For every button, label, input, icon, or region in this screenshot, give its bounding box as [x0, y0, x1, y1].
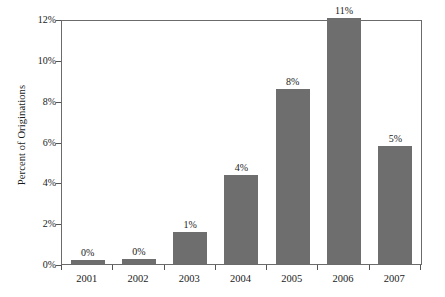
x-axis-tick-mark: [164, 265, 165, 270]
bar[interactable]: [327, 18, 361, 264]
x-axis-tick-mark: [61, 265, 62, 270]
x-axis-tick-label: 2007: [384, 272, 405, 285]
bar-value-label: 11%: [335, 5, 353, 16]
bar[interactable]: [71, 260, 105, 264]
bar[interactable]: [378, 146, 412, 264]
bar[interactable]: [173, 232, 207, 264]
x-axis-tick-mark: [112, 265, 113, 270]
bar[interactable]: [122, 259, 156, 264]
bar-value-label: 5%: [389, 133, 402, 144]
y-axis-tick-label: 2%: [26, 219, 56, 229]
x-axis-tick-label: 2004: [230, 272, 251, 285]
bar-group: 8%: [267, 21, 318, 264]
bar-group: 5%: [370, 21, 421, 264]
bar-value-label: 4%: [235, 162, 248, 173]
bar-value-label: 8%: [286, 76, 299, 87]
y-axis-tick-label: 12%: [26, 15, 56, 25]
plot-area: 0%0%1%4%8%11%5%: [62, 21, 421, 264]
bar-value-label: 0%: [81, 247, 94, 258]
y-axis-tick-label: 0%: [26, 260, 56, 270]
y-axis-tick-label: 10%: [26, 56, 56, 66]
x-axis-tick-label: 2002: [127, 272, 148, 285]
bar-group: 0%: [113, 21, 164, 264]
bar[interactable]: [276, 89, 310, 264]
y-axis-tick-label: 6%: [26, 138, 56, 148]
bar-group: 11%: [318, 21, 369, 264]
x-axis-tick-mark: [369, 265, 370, 270]
bar-group: 0%: [62, 21, 113, 264]
bar-chart: Percent of Originations 0%2%4%6%8%10%12%…: [0, 0, 445, 297]
x-axis-tick-mark: [317, 265, 318, 270]
x-axis-tick-mark: [420, 265, 421, 270]
bar-value-label: 0%: [132, 246, 145, 257]
x-axis-tick-marks: [61, 265, 422, 271]
y-axis-tick-label: 4%: [26, 178, 56, 188]
x-axis-tick-mark: [266, 265, 267, 270]
y-axis-tick-label: 8%: [26, 97, 56, 107]
x-axis-tick-label: 2001: [76, 272, 97, 285]
x-axis-tick-labels: 2001200220032004200520062007: [61, 272, 422, 288]
x-axis-tick-label: 2006: [333, 272, 354, 285]
bar[interactable]: [224, 175, 258, 264]
bar-group: 1%: [165, 21, 216, 264]
y-axis-tick-labels: 0%2%4%6%8%10%12%: [26, 0, 56, 297]
bar-value-label: 1%: [184, 219, 197, 230]
bar-group: 4%: [216, 21, 267, 264]
x-axis-tick-mark: [215, 265, 216, 270]
x-axis-tick-label: 2003: [179, 272, 200, 285]
x-axis-tick-label: 2005: [281, 272, 302, 285]
